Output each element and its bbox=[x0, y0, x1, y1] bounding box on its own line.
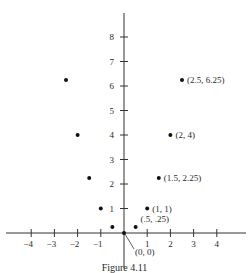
data-point bbox=[99, 207, 103, 211]
y-tick-label: 8 bbox=[110, 32, 115, 42]
point-label: (0, 0) bbox=[135, 247, 155, 257]
point-label: (1.5, 2.25) bbox=[164, 173, 202, 183]
x-ticks: −4−3−2−11234 bbox=[23, 229, 219, 249]
data-point bbox=[145, 207, 149, 211]
data-point bbox=[64, 78, 68, 82]
y-tick-label: 6 bbox=[110, 81, 115, 91]
data-point bbox=[157, 176, 161, 180]
x-tick-label: 4 bbox=[215, 239, 220, 249]
point-labels: (0, 0)(.5, .25)(1, 1)(1.5, 2.25)(2, 4)(2… bbox=[125, 75, 225, 257]
data-point bbox=[180, 78, 184, 82]
y-tick-label: 5 bbox=[110, 106, 115, 116]
data-point bbox=[87, 176, 91, 180]
y-tick-label: 2 bbox=[110, 179, 115, 189]
data-point bbox=[110, 225, 114, 229]
y-tick-label: 3 bbox=[110, 155, 115, 165]
y-tick-label: 7 bbox=[110, 57, 115, 67]
y-tick-label: 4 bbox=[110, 130, 115, 140]
data-point bbox=[76, 133, 80, 137]
data-point bbox=[134, 225, 138, 229]
axes bbox=[6, 13, 246, 268]
x-tick-label: 3 bbox=[191, 239, 196, 249]
x-tick-label: −2 bbox=[70, 239, 80, 249]
x-tick-label: −1 bbox=[93, 239, 103, 249]
x-tick-label: 2 bbox=[168, 239, 173, 249]
data-point bbox=[168, 133, 172, 137]
point-label: (1, 1) bbox=[152, 204, 172, 214]
point-label: (.5, .25) bbox=[141, 214, 170, 224]
origin-leader-line bbox=[125, 234, 134, 249]
y-ticks: 12345678 bbox=[110, 32, 129, 214]
x-tick-label: −3 bbox=[47, 239, 57, 249]
point-label: (2, 4) bbox=[175, 130, 195, 140]
y-tick-label: 1 bbox=[110, 204, 115, 214]
point-label: (2.5, 6.25) bbox=[187, 75, 225, 85]
x-tick-label: −4 bbox=[23, 239, 33, 249]
figure-caption: Figure 4.11 bbox=[0, 262, 249, 273]
